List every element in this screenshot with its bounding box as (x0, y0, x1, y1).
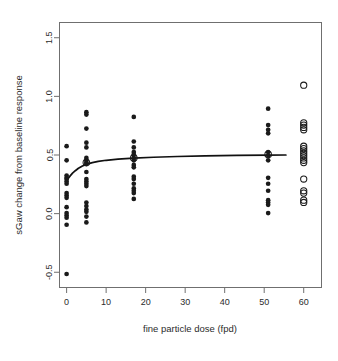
scatter-plot-figure: -0.50.00.51.01.5 0102030405060 fine part… (0, 0, 338, 361)
data-point-filled (84, 126, 89, 131)
data-point-filled (64, 144, 69, 149)
data-point-filled (266, 106, 271, 111)
y-tick-label: 0.0 (45, 207, 55, 220)
data-point-filled (131, 139, 136, 144)
data-point-filled (131, 165, 136, 170)
data-point-filled (84, 214, 89, 219)
data-point-filled (64, 215, 69, 220)
x-tick-label: 10 (101, 297, 111, 307)
data-point-filled (131, 181, 136, 186)
y-axis-title: sGaw change from baseline response (13, 75, 24, 234)
data-point-filled (131, 197, 136, 202)
data-point-filled (266, 181, 271, 186)
data-point-filled (64, 272, 69, 277)
plot-background (0, 0, 338, 361)
x-tick-label: 60 (299, 297, 309, 307)
data-point-filled (64, 181, 69, 186)
data-point-filled (266, 211, 271, 216)
y-tick-label: 0.5 (45, 149, 55, 162)
data-point-filled (64, 222, 69, 227)
data-point-filled (84, 140, 89, 145)
x-tick-label: 30 (180, 297, 190, 307)
x-tick-label: 40 (220, 297, 230, 307)
data-point-filled (64, 158, 69, 163)
data-point-filled (131, 145, 136, 150)
y-tick-label: 1.5 (45, 31, 55, 44)
data-point-filled (84, 210, 89, 215)
data-point-filled (84, 170, 89, 175)
data-point-filled (266, 131, 271, 136)
x-axis-title: fine particle dose (fpd) (143, 323, 237, 334)
data-point-filled (84, 112, 89, 117)
data-point-filled (266, 123, 271, 128)
data-point-filled (84, 184, 89, 189)
data-point-filled (266, 158, 271, 163)
y-tick-label: -0.5 (45, 264, 55, 280)
data-point-filled (84, 220, 89, 225)
data-point-filled (131, 115, 136, 120)
data-point-filled (131, 177, 136, 182)
data-point-filled (64, 195, 69, 200)
x-tick-label: 20 (141, 297, 151, 307)
data-point-filled (64, 205, 69, 210)
plot-canvas: -0.50.00.51.01.5 0102030405060 fine part… (0, 0, 338, 361)
data-point-filled (131, 191, 136, 196)
data-point-filled (266, 202, 271, 207)
x-tick-label: 0 (64, 297, 69, 307)
data-point-filled (84, 145, 89, 150)
data-point-filled (266, 176, 271, 181)
data-point-filled (266, 188, 271, 193)
y-tick-label: 1.0 (45, 90, 55, 103)
x-tick-label: 50 (259, 297, 269, 307)
